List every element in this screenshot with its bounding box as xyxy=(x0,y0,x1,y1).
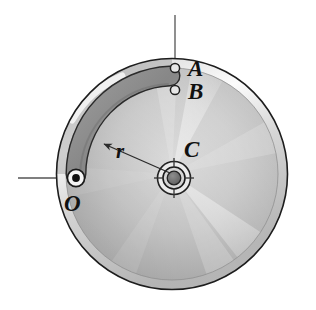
disc-figure xyxy=(0,0,316,310)
pivot-center-dot xyxy=(72,174,80,182)
hole-b xyxy=(170,85,179,94)
label-radius-r: r xyxy=(116,141,124,162)
label-center-c: C xyxy=(184,138,199,161)
pivot-pin xyxy=(67,169,84,186)
hole-a xyxy=(170,63,179,72)
label-point-b: B xyxy=(188,80,203,103)
label-point-a: A xyxy=(188,57,203,80)
label-pivot-o: O xyxy=(64,192,81,215)
